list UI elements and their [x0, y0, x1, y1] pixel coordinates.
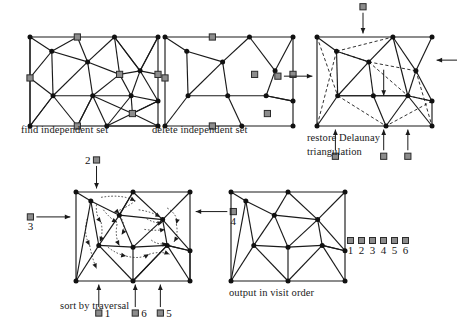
graph-node: [138, 68, 143, 73]
graph-edge: [30, 96, 53, 126]
marked-node-square: [157, 310, 163, 316]
panel-find-independent-set: [24, 31, 174, 136]
graph-edge-dashed: [317, 37, 338, 96]
graph-edge: [288, 245, 322, 281]
graph-edge: [187, 51, 188, 96]
caption-restore-delaunay-line1: restore Delaunay: [307, 132, 380, 143]
graph-node: [430, 35, 435, 40]
graph-edge: [88, 62, 120, 74]
graph-edge: [93, 96, 107, 126]
graph-edge: [52, 37, 78, 51]
graph-node: [131, 279, 136, 284]
graph-edge: [246, 201, 275, 215]
graph-node: [384, 124, 389, 129]
graph-node: [165, 243, 170, 248]
graph-edge: [338, 62, 369, 96]
caption-restore-delaunay-line2: triangulation: [307, 146, 362, 157]
legend-item: 2: [358, 237, 365, 257]
graph-edge: [416, 37, 432, 71]
graph-edge: [337, 51, 369, 62]
graph-edge: [318, 192, 345, 220]
legend-label: 4: [381, 245, 387, 257]
traversal-arrowhead: [114, 209, 119, 213]
legend-square-marker: [347, 237, 354, 244]
annotation-arrowhead: [361, 28, 366, 34]
graph-node: [286, 279, 291, 284]
graph-node: [186, 93, 191, 98]
legend-square-marker: [358, 237, 365, 244]
traversal-arrowhead: [85, 240, 89, 245]
caption-output-visit-order: output in visit order: [229, 287, 314, 298]
graph-find-independent-set: [24, 31, 174, 136]
graph-edge: [53, 96, 77, 126]
graph-edge: [274, 192, 288, 215]
legend-label: 5: [392, 245, 398, 257]
graph-node: [264, 93, 269, 98]
graph-edge: [288, 220, 318, 248]
annotation-arrowhead: [437, 58, 443, 63]
annotation-arrowhead: [381, 130, 386, 136]
graph-edge-dashed: [317, 51, 337, 126]
graph-node: [315, 124, 320, 129]
graph-node: [286, 245, 291, 250]
graph-edge: [140, 37, 158, 71]
marked-node-square: [360, 4, 366, 10]
arrow-order-label: 6: [141, 307, 147, 319]
graph-node: [366, 59, 371, 64]
marked-node-square: [209, 34, 215, 40]
graph-edge: [30, 51, 52, 78]
graph-node: [343, 279, 348, 284]
graph-edge: [163, 192, 190, 220]
legend-label: 1: [348, 245, 354, 257]
graph-node: [286, 190, 291, 195]
graph-node: [85, 59, 90, 64]
graph-node: [272, 213, 277, 218]
graph-edge: [88, 62, 93, 96]
graph-edge: [52, 51, 88, 62]
graph-edge: [393, 37, 416, 71]
marked-node-square: [117, 71, 123, 77]
legend-square-marker: [402, 237, 409, 244]
annotation-arrowhead: [307, 74, 313, 79]
traversal-arrowhead: [175, 219, 179, 224]
graph-node: [188, 279, 193, 284]
graph-edge: [288, 192, 318, 220]
graph-edge: [93, 96, 133, 114]
caption-find-independent-set: find independent set: [21, 124, 108, 135]
panel-sort-by-traversal: 234165: [70, 186, 230, 296]
marked-node-square: [252, 71, 258, 77]
graph-edge: [107, 114, 133, 126]
graph-edge: [386, 96, 408, 126]
graph-node: [51, 93, 56, 98]
graph-edge: [246, 201, 254, 246]
annotation-arrowhead: [133, 285, 138, 291]
marked-node-square: [74, 34, 80, 40]
graph-edge: [119, 215, 133, 247]
graph-edge: [274, 215, 288, 247]
graph-edge: [99, 245, 133, 281]
graph-node: [96, 243, 101, 248]
marked-node-square: [129, 110, 135, 116]
traversal-arrowhead: [115, 240, 119, 245]
marked-node-square: [27, 75, 33, 81]
graph-node: [163, 35, 168, 40]
graph-edge: [88, 37, 115, 62]
graph-edge-dashed: [337, 37, 393, 51]
graph-edge: [369, 62, 374, 96]
marked-node-square: [132, 310, 138, 316]
graph-node: [131, 245, 136, 250]
graph-edge: [188, 62, 223, 96]
graph-node: [188, 248, 193, 253]
graph-node: [49, 49, 54, 54]
graph-edge: [408, 71, 416, 96]
graph-node: [160, 217, 165, 222]
legend-label: 2: [359, 245, 365, 257]
marked-node-square: [405, 153, 411, 159]
graph-restore-delaunay: [287, 7, 437, 127]
graph-node: [184, 49, 189, 54]
graph-node: [413, 68, 418, 73]
graph-edge: [30, 37, 52, 51]
graph-node: [225, 93, 230, 98]
graph-node: [405, 93, 410, 98]
panel-restore-delaunay: [311, 31, 437, 127]
